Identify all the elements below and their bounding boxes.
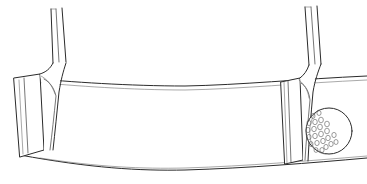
putter-illustration [0, 0, 367, 184]
left-shaft-left-line [51, 9, 53, 63]
left-face-panel-surface [14, 74, 44, 157]
right-shaft-center-line [311, 7, 315, 64]
golf-ball [306, 108, 352, 154]
left-shaft-center-line [56, 9, 59, 62]
right-shaft-right-line [317, 6, 321, 64]
figure-container [0, 0, 367, 184]
right-shaft-left-line [305, 7, 309, 65]
left-shaft-right-line [62, 8, 66, 62]
